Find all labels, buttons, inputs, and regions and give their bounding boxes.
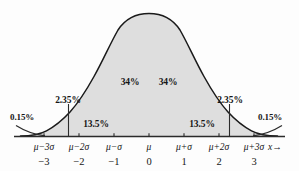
percent-label-right-inner: 13.5% — [189, 120, 215, 130]
normal-distribution-figure: 0.15% 2.35% 13.5% 34% 34% 13.5% 2.35% 0.… — [0, 0, 299, 171]
tick-num-label-zero: 0 — [146, 157, 151, 168]
curve-fill-area — [21, 14, 278, 137]
tick-num-label-minus-2: −2 — [73, 157, 84, 168]
percent-label-left-inner: 13.5% — [83, 120, 109, 130]
tick-sigma-label-minus-3: μ−3σ — [34, 143, 55, 153]
x-axis-arrow-icon: → — [272, 142, 282, 152]
tick-num-label-minus-1: −1 — [108, 157, 119, 168]
percent-label-right-mid: 2.35% — [217, 96, 243, 106]
tick-num-label-plus-2: 2 — [216, 157, 221, 168]
tick-sigma-label-minus-1: μ−σ — [106, 143, 122, 153]
x-axis-label: x→ — [268, 143, 282, 153]
percent-label-center-right: 34% — [159, 78, 178, 88]
percent-label-center-left: 34% — [121, 78, 140, 88]
tick-sigma-label-plus-2: μ+2σ — [209, 143, 230, 153]
percent-label-left-outer: 0.15% — [10, 113, 34, 122]
tick-num-label-plus-1: 1 — [181, 157, 186, 168]
tick-sigma-label-plus-3: μ+3σ — [244, 143, 265, 153]
percent-label-left-mid: 2.35% — [55, 96, 81, 106]
percent-label-right-outer: 0.15% — [258, 113, 282, 122]
tick-sigma-label-minus-2: μ−2σ — [69, 143, 90, 153]
tick-num-label-plus-3: 3 — [251, 157, 256, 168]
tick-sigma-label-plus-1: μ+σ — [176, 143, 192, 153]
tick-sigma-label-mu: μ — [147, 143, 152, 153]
tick-num-label-minus-3: −3 — [38, 157, 49, 168]
